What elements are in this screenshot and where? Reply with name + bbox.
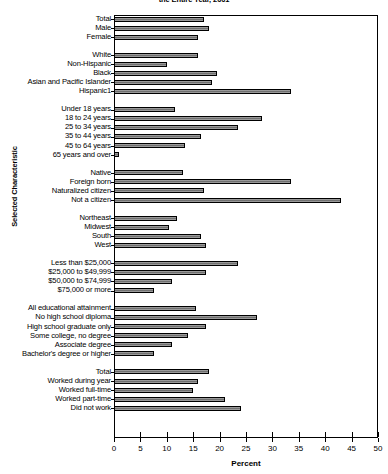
- y-axis-tick: [111, 182, 114, 183]
- bar: [114, 216, 177, 221]
- bar: [114, 342, 172, 347]
- y-axis-label: Black: [0, 69, 111, 77]
- bar: [114, 179, 291, 184]
- y-axis-tick: [111, 263, 114, 264]
- y-axis-tick: [111, 73, 114, 74]
- y-axis-tick: [111, 345, 114, 346]
- bar: [114, 62, 167, 67]
- y-axis-tick: [111, 137, 114, 138]
- x-axis-tick-inner: [246, 432, 247, 437]
- x-axis-tick-inner: [167, 432, 168, 437]
- y-axis-label: $75,000 or more: [0, 286, 111, 294]
- y-axis-tick: [111, 291, 114, 292]
- y-axis-tick: [111, 191, 114, 192]
- x-axis-tick-inner: [352, 432, 353, 437]
- bar: [114, 379, 198, 384]
- bar: [114, 306, 196, 311]
- y-axis-tick: [111, 236, 114, 237]
- x-axis-tick: [378, 438, 379, 442]
- y-axis-label: White: [0, 51, 111, 59]
- y-axis-tick: [111, 390, 114, 391]
- y-axis-label: High school graduate only: [0, 323, 111, 331]
- y-axis-tick: [111, 82, 114, 83]
- y-axis-label: South: [0, 232, 111, 240]
- y-axis-label: 35 to 44 years: [0, 132, 111, 140]
- y-axis-label: 45 to 64 years: [0, 142, 111, 150]
- y-axis-tick: [111, 318, 114, 319]
- bar: [114, 225, 169, 230]
- x-axis-tick-inner: [193, 432, 194, 437]
- x-axis-label: 35: [287, 444, 311, 453]
- chart-figure: the Entire Year, 2001 Selected Character…: [0, 0, 388, 474]
- x-axis-label: 40: [313, 444, 337, 453]
- y-axis-tick: [111, 218, 114, 219]
- bar: [114, 279, 172, 284]
- bar: [114, 324, 206, 329]
- y-axis-tick: [111, 381, 114, 382]
- y-axis-label: Asian and Pacific Islander: [0, 78, 111, 86]
- y-axis-label: Female: [0, 33, 111, 41]
- bar: [114, 17, 204, 22]
- y-axis-tick: [111, 399, 114, 400]
- y-axis-label: 65 years and over: [0, 151, 111, 159]
- y-axis-labels: TotalMaleFemaleWhiteNon-HispanicBlackAsi…: [0, 15, 111, 438]
- y-axis-tick: [111, 91, 114, 92]
- y-axis-tick: [111, 327, 114, 328]
- x-axis-tick-inner: [299, 432, 300, 437]
- x-axis-label: 0: [102, 444, 126, 453]
- x-axis-label: 50: [366, 444, 388, 453]
- y-axis-label: $25,000 to $49,999: [0, 268, 111, 276]
- y-axis-label: Total: [0, 15, 111, 23]
- bar: [114, 270, 206, 275]
- y-axis-tick: [111, 408, 114, 409]
- x-axis-label: 45: [340, 444, 364, 453]
- x-axis-label: 5: [128, 444, 152, 453]
- bar: [114, 170, 183, 175]
- y-axis-label: Worked full-time: [0, 386, 111, 394]
- y-axis-tick: [111, 336, 114, 337]
- y-axis-label: Associate degree: [0, 341, 111, 349]
- y-axis-tick: [111, 173, 114, 174]
- x-axis-tick: [246, 438, 247, 442]
- bar: [114, 134, 201, 139]
- x-axis-tick: [167, 438, 168, 442]
- y-axis-label: Not a citizen: [0, 196, 111, 204]
- bar: [114, 198, 341, 203]
- x-axis-label: 20: [208, 444, 232, 453]
- bar: [114, 89, 291, 94]
- bar: [114, 315, 257, 320]
- bar: [114, 261, 238, 266]
- y-axis-label: Bachelor's degree or higher: [0, 350, 111, 358]
- y-axis-tick: [111, 64, 114, 65]
- bar: [114, 143, 185, 148]
- x-axis-tick: [299, 438, 300, 442]
- bar: [114, 152, 119, 157]
- bar: [114, 333, 188, 338]
- bar: [114, 288, 154, 293]
- y-axis-tick: [111, 119, 114, 120]
- bar: [114, 26, 209, 31]
- y-axis-label: Hispanic1: [0, 87, 111, 95]
- bar: [114, 125, 238, 130]
- x-axis-label: 25: [234, 444, 258, 453]
- x-axis-tick: [140, 438, 141, 442]
- y-axis-label: Midwest: [0, 223, 111, 231]
- bar: [114, 351, 154, 356]
- y-axis-tick: [111, 245, 114, 246]
- bar: [114, 116, 262, 121]
- y-axis-tick: [111, 200, 114, 201]
- y-axis-label: West: [0, 241, 111, 249]
- bar: [114, 234, 201, 239]
- y-axis-label: $50,000 to $74,999: [0, 277, 111, 285]
- y-axis-tick: [111, 19, 114, 20]
- bar: [114, 243, 206, 248]
- y-axis-label: 25 to 34 years: [0, 123, 111, 131]
- x-axis-label: 15: [181, 444, 205, 453]
- y-axis-label: Foreign born: [0, 178, 111, 186]
- x-axis-tick: [193, 438, 194, 442]
- y-axis-tick: [111, 55, 114, 56]
- y-axis-label: Worked during year: [0, 377, 111, 385]
- x-axis-tick: [352, 438, 353, 442]
- y-axis-tick: [111, 272, 114, 273]
- y-axis-label: All educational attainment: [0, 304, 111, 312]
